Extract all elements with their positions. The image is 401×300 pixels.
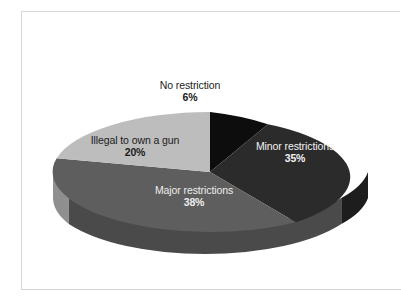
- pie-label-major-restrictions-name: Major restrictions: [131, 184, 257, 196]
- pie-label-major-restrictions: Major restrictions 38%: [131, 184, 257, 209]
- pie-label-no-restriction: No restriction 6%: [128, 79, 252, 104]
- pie-label-illegal-to-own-a-gun-name: Illegal to own a gun: [62, 134, 208, 146]
- screenshot-root: No restriction 6% Minor restrictions 35%…: [0, 0, 401, 300]
- pie-label-illegal-to-own-a-gun-value: 20%: [62, 146, 208, 158]
- pie-label-no-restriction-name: No restriction: [128, 79, 252, 91]
- pie-label-minor-restrictions-name: Minor restrictions: [232, 140, 358, 152]
- pie-label-minor-restrictions-value: 35%: [232, 152, 358, 164]
- pie-label-illegal-to-own-a-gun: Illegal to own a gun 20%: [62, 134, 208, 159]
- pie-label-no-restriction-value: 6%: [128, 91, 252, 103]
- pie-label-major-restrictions-value: 38%: [131, 196, 257, 208]
- pie-chart: No restriction 6% Minor restrictions 35%…: [0, 0, 401, 300]
- pie-label-minor-restrictions: Minor restrictions 35%: [232, 140, 358, 165]
